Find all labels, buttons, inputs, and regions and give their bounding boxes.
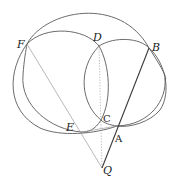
- line-FQ: [27, 44, 102, 168]
- label-D: D: [92, 31, 102, 44]
- left-circle: [23, 31, 109, 132]
- label-A: A: [114, 133, 123, 144]
- label-F: F: [16, 38, 25, 51]
- label-C: C: [103, 113, 111, 124]
- geometry-figure: F D B E C A Q: [0, 0, 177, 182]
- label-Q: Q: [103, 164, 112, 177]
- large-circle: [27, 13, 166, 80]
- large-circle-right-lower: [117, 78, 165, 126]
- label-E: E: [65, 121, 74, 134]
- label-B: B: [151, 41, 160, 54]
- line-BQ: [102, 48, 149, 168]
- line-DQ: [99, 46, 102, 168]
